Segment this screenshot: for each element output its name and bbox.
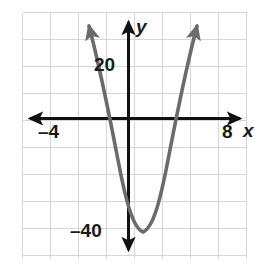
y-tick-label-neg40: –40 (70, 221, 102, 240)
y-axis-title: y (136, 17, 147, 36)
graph-figure: 20 –4 8 x –40 y (0, 0, 268, 273)
x-tick-label-neg4: –4 (38, 122, 59, 141)
x-tick-label-8: 8 (222, 122, 233, 141)
x-axis-title: x (243, 121, 254, 140)
y-tick-label-20: 20 (94, 55, 115, 74)
